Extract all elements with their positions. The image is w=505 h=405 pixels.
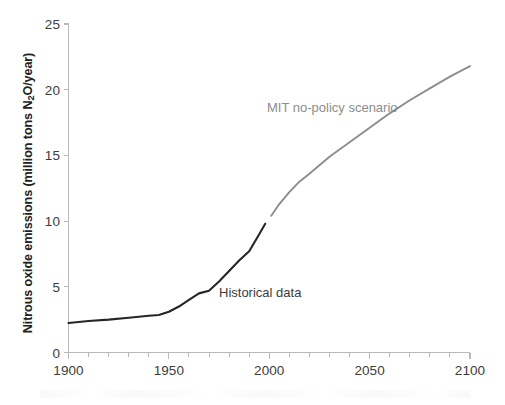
x-axis-tick-label: 1950 (154, 363, 184, 378)
series-line-historical-data (69, 224, 266, 323)
axes-group (69, 24, 471, 353)
annotation-mit-no-policy-scenario: MIT no-policy scenario (267, 100, 398, 115)
y-axis-title: Nitrous oxide emissions (million tons N2… (21, 28, 35, 358)
y-axis-title-subscript: 2 (25, 95, 36, 100)
x-axis-tick-label: 2000 (254, 363, 284, 378)
annotation-historical-data: Historical data (219, 285, 301, 300)
x-axis-tick-label: 2050 (354, 363, 384, 378)
series-line-mit-no-policy-scenario (271, 66, 470, 216)
y-axis-title-suffix: O/year) (21, 53, 35, 96)
chart-container: 0510152025 19001950200020502100 Nitrous … (0, 0, 505, 405)
chart-plot-area (0, 0, 505, 405)
cropped-caption-artifact (40, 390, 470, 398)
x-axis-tick-label: 2100 (455, 363, 485, 378)
y-axis-ticks (64, 24, 69, 353)
y-axis-title-prefix: Nitrous oxide emissions (million tons N (21, 101, 35, 334)
x-axis-tick-label: 1900 (53, 363, 83, 378)
